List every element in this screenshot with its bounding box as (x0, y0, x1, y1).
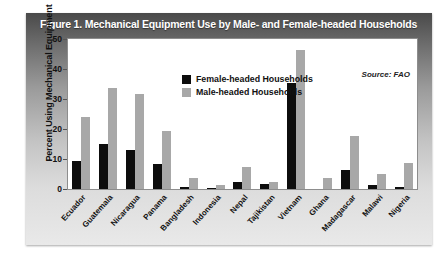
x-axis-labels: EcuadorGuatemalaNicaraguaPanamaBanglades… (67, 191, 418, 243)
bar-female (180, 187, 189, 189)
bar-female (260, 184, 269, 189)
bar-female (233, 182, 242, 189)
bar-group (95, 39, 122, 189)
figure-panel: Figure 1. Mechanical Equipment Use by Ma… (26, 13, 432, 245)
y-axis-tick-label: 40 (53, 64, 62, 74)
legend-label-male: Male-headed Households (196, 87, 302, 97)
bar-female (341, 170, 350, 189)
bar-male (216, 185, 225, 189)
bar-male (108, 88, 117, 189)
x-axis-tick-label: Ecuador (59, 193, 87, 223)
y-axis-tick-label: 0 (57, 184, 62, 194)
bar-group (310, 39, 337, 189)
bar-male (269, 182, 278, 189)
bar-male (350, 136, 359, 189)
bar-male (162, 131, 171, 189)
bar-group (363, 39, 390, 189)
bar-female (207, 188, 216, 189)
bar-group (336, 39, 363, 189)
bar-group (122, 39, 149, 189)
bar-group (256, 39, 283, 189)
x-axis-label-cell: Malawi (364, 191, 391, 243)
bar-group (229, 39, 256, 189)
x-axis-tick-label: Nigeria (386, 193, 411, 219)
y-axis-tick-label: 50 (53, 34, 62, 44)
figure-title: Figure 1. Mechanical Equipment Use by Ma… (40, 18, 425, 34)
bar-male (323, 178, 332, 189)
x-axis-tick-label: Malawi (360, 193, 384, 219)
bar-group (149, 39, 176, 189)
bar-group (68, 39, 95, 189)
y-axis: Percent Using Mechanical Equipment 01020… (26, 38, 67, 190)
bar-group (202, 39, 229, 189)
y-axis-tick-label: 30 (53, 94, 62, 104)
legend-swatch-male-icon (182, 88, 191, 97)
bar-male (404, 163, 413, 189)
bar-male (81, 117, 90, 189)
x-axis-label-cell: Indonesia (202, 191, 229, 243)
bar-male (242, 167, 251, 189)
y-axis-tick-label: 10 (53, 154, 62, 164)
x-axis-label-cell: Vietnam (283, 191, 310, 243)
legend-item-male: Male-headed Households (182, 87, 313, 97)
bar-female (99, 144, 108, 189)
bar-male (377, 174, 386, 189)
source-note: Source: FAO (362, 70, 410, 79)
bar-male (296, 50, 305, 189)
y-axis-tick-label: 20 (53, 124, 62, 134)
y-axis-title: Percent Using Mechanical Equipment (44, 0, 54, 168)
bar-group (283, 39, 310, 189)
legend-swatch-female-icon (182, 75, 191, 84)
bar-series-container (68, 39, 417, 189)
bar-female (153, 164, 162, 189)
x-axis-tick-label: Ghana (307, 193, 330, 218)
legend: Female-headed Households Male-headed Hou… (182, 74, 313, 100)
x-axis-tick-label: Nepal (228, 193, 249, 215)
bar-male (135, 94, 144, 189)
plot-area: Female-headed Households Male-headed Hou… (67, 38, 418, 190)
bar-female (72, 161, 81, 189)
bar-female (126, 150, 135, 189)
legend-item-female: Female-headed Households (182, 74, 313, 84)
bar-female (368, 185, 377, 189)
bar-female (395, 187, 404, 189)
bar-group (175, 39, 202, 189)
x-axis-label-cell: Madagascar (337, 191, 364, 243)
legend-label-female: Female-headed Households (196, 74, 313, 84)
x-axis-label-cell: Nigeria (391, 191, 418, 243)
bar-male (189, 178, 198, 189)
bar-group (390, 39, 417, 189)
